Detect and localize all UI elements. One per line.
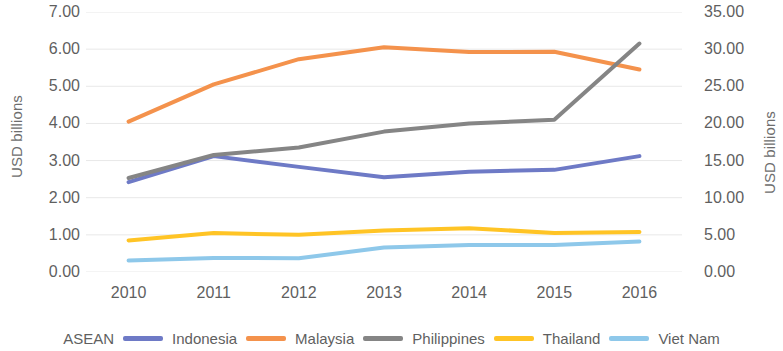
series-line-philippines <box>129 44 640 178</box>
legend-label-thailand: Thailand <box>543 330 601 347</box>
legend-label-viet-nam: Viet Nam <box>658 330 719 347</box>
y-tick-right-6: 30.00 <box>704 40 744 58</box>
plot-area <box>86 12 682 272</box>
legend-label-malaysia: Malaysia <box>295 330 354 347</box>
y-tick-left-5: 5.00 <box>49 77 80 95</box>
x-tick-2014: 2014 <box>451 284 487 302</box>
legend-swatch-indonesia <box>123 336 163 341</box>
y-tick-right-3: 15.00 <box>704 152 744 170</box>
y-tick-left-4: 4.00 <box>49 114 80 132</box>
legend-swatch-malaysia <box>246 336 286 341</box>
x-tick-2016: 2016 <box>622 284 658 302</box>
series-line-thailand <box>129 228 640 240</box>
y-tick-left-1: 1.00 <box>49 226 80 244</box>
x-tick-2012: 2012 <box>281 284 317 302</box>
legend-swatch-viet-nam <box>609 336 649 341</box>
x-tick-2010: 2010 <box>111 284 147 302</box>
x-tick-2013: 2013 <box>366 284 402 302</box>
legend-entry-thailand[interactable]: Thailand <box>494 330 601 347</box>
x-tick-2011: 2011 <box>197 284 231 302</box>
y-tick-left-3: 3.00 <box>49 152 80 170</box>
line-chart: USD billions USD billions 0.001.002.003.… <box>0 0 783 351</box>
legend-entry-philippines[interactable]: Philippines <box>363 330 485 347</box>
y-tick-left-0: 0.00 <box>49 263 80 281</box>
series-line-viet-nam <box>129 242 640 261</box>
y-tick-left-6: 6.00 <box>49 40 80 58</box>
y-tick-right-1: 5.00 <box>704 226 735 244</box>
y-tick-right-5: 25.00 <box>704 77 744 95</box>
y-tick-left-7: 7.00 <box>49 3 80 21</box>
plot-svg <box>86 12 682 272</box>
y-axis-title-right: USD billions <box>761 93 778 213</box>
legend-entry-viet-nam[interactable]: Viet Nam <box>609 330 719 347</box>
series-line-indonesia <box>129 156 640 182</box>
x-tick-2015: 2015 <box>536 284 572 302</box>
legend-entry-indonesia[interactable]: Indonesia <box>123 330 237 347</box>
legend-prefix-asean: ASEAN <box>63 330 114 347</box>
y-tick-right-4: 20.00 <box>704 114 744 132</box>
y-tick-right-2: 10.00 <box>704 189 744 207</box>
legend-swatch-philippines <box>363 336 403 341</box>
legend-swatch-thailand <box>494 336 534 341</box>
y-tick-right-0: 0.00 <box>704 263 735 281</box>
y-tick-right-7: 35.00 <box>704 3 744 21</box>
y-axis-title-left: USD billions <box>8 77 25 197</box>
legend-label-indonesia: Indonesia <box>172 330 237 347</box>
y-tick-left-2: 2.00 <box>49 189 80 207</box>
legend-label-philippines: Philippines <box>412 330 485 347</box>
legend-entry-malaysia[interactable]: Malaysia <box>246 330 354 347</box>
chart-legend: ASEAN IndonesiaMalaysiaPhilippinesThaila… <box>0 326 783 351</box>
